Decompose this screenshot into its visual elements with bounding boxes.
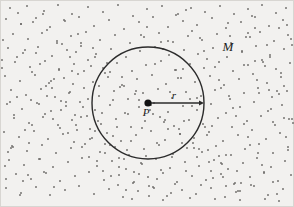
scatter-dot: [65, 105, 67, 107]
scatter-dot: [196, 24, 198, 26]
scatter-dot: [3, 131, 5, 133]
scatter-dot: [225, 27, 227, 29]
scatter-dot: [107, 76, 109, 78]
scatter-dot: [247, 8, 249, 10]
scatter-dot: [214, 89, 216, 91]
scatter-dot: [151, 74, 153, 76]
scatter-dot: [131, 198, 133, 200]
scatter-dot: [34, 74, 36, 76]
scatter-dot: [282, 19, 284, 21]
scatter-dot: [71, 119, 73, 121]
scatter-dot: [208, 161, 210, 163]
scatter-dot: [19, 194, 21, 196]
scatter-dot: [92, 81, 94, 83]
scatter-dot: [14, 61, 16, 63]
scatter-dot: [90, 65, 92, 67]
scatter-dot: [117, 4, 119, 6]
scatter-dot: [283, 85, 285, 87]
scatter-dot: [264, 198, 266, 200]
scatter-dot: [255, 45, 257, 47]
scatter-dot: [203, 50, 205, 52]
scatter-dot: [41, 32, 43, 34]
scatter-dot: [212, 177, 214, 179]
scatter-dot: [249, 144, 251, 146]
scatter-dot: [48, 82, 50, 84]
scatter-dot: [169, 167, 171, 169]
scatter-dot: [118, 166, 120, 168]
scatter-dot: [80, 42, 82, 44]
scatter-dot: [20, 192, 22, 194]
scatter-dot: [260, 115, 262, 117]
scatter-dot: [95, 53, 97, 55]
scatter-dot: [287, 149, 289, 151]
scatter-dot: [85, 31, 87, 33]
scatter-dot: [154, 63, 156, 65]
scatter-dot: [254, 16, 256, 18]
scatter-dot: [290, 174, 292, 176]
scatter-dot: [37, 46, 39, 48]
scatter-dot: [256, 79, 258, 81]
scatter-dot: [286, 90, 288, 92]
scatter-dot: [198, 165, 200, 167]
scatter-dot: [86, 115, 88, 117]
scatter-dot: [45, 85, 47, 87]
scatter-dot: [84, 143, 86, 145]
scatter-dot: [22, 52, 24, 54]
scatter-dot: [167, 40, 169, 42]
scatter-dot: [259, 31, 261, 33]
scatter-dot: [210, 187, 212, 189]
scatter-dot: [104, 72, 106, 74]
scatter-dot: [24, 129, 26, 131]
scatter-dot: [43, 171, 45, 173]
scatter-dot: [78, 185, 80, 187]
scatter-dot: [218, 61, 220, 63]
scatter-dot: [230, 154, 232, 156]
scatter-dot: [123, 28, 125, 30]
scatter-dot: [24, 49, 26, 51]
scatter-dot: [192, 142, 194, 144]
scatter-dot: [135, 134, 137, 136]
scatter-dot: [189, 98, 191, 100]
scatter-dot: [218, 155, 220, 157]
scatter-dot: [210, 103, 212, 105]
scatter-dot: [214, 66, 216, 68]
scatter-dot: [146, 8, 148, 10]
scatter-dot: [20, 23, 22, 25]
scatter-dot: [127, 113, 129, 115]
scatter-dot: [79, 101, 81, 103]
scatter-dot: [261, 4, 263, 6]
scatter-dot: [23, 164, 25, 166]
scatter-dot: [26, 5, 28, 7]
scatter-dot: [62, 133, 64, 135]
scatter-dot: [59, 180, 61, 182]
scatter-dot: [214, 198, 216, 200]
scatter-dot: [67, 161, 69, 163]
scatter-dot: [239, 190, 241, 192]
scatter-dot: [204, 126, 206, 128]
scatter-dot: [275, 68, 277, 70]
scatter-dot: [187, 35, 189, 37]
scatter-dot: [141, 127, 143, 129]
scatter-dot: [278, 27, 280, 29]
scatter-dot: [12, 146, 14, 148]
scatter-dot: [222, 176, 224, 178]
scatter-dot: [15, 173, 17, 175]
scatter-dot: [217, 117, 219, 119]
scatter-dot: [75, 51, 77, 53]
scatter-dot: [261, 59, 263, 61]
scatter-dot: [292, 122, 294, 124]
scatter-dot: [58, 69, 60, 71]
scatter-dot: [274, 124, 276, 126]
scatter-dot: [28, 122, 30, 124]
scatter-dot: [4, 75, 6, 77]
scatter-dot: [272, 121, 274, 123]
scatter-dot: [43, 10, 45, 12]
scatter-dot: [53, 78, 55, 80]
scatter-dot: [291, 118, 293, 120]
scatter-dot: [144, 120, 146, 122]
scatter-dot: [280, 72, 282, 74]
scatter-dot: [253, 185, 255, 187]
scatter-dot: [273, 40, 275, 42]
scatter-dot: [220, 173, 222, 175]
scatter-dot: [5, 187, 7, 189]
